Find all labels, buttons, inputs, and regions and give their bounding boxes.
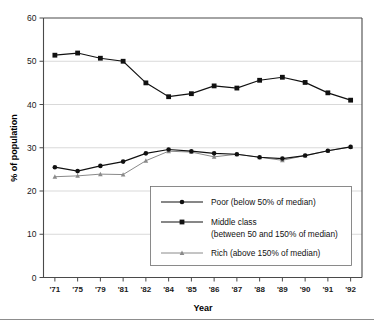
- x-tick-label: '81: [118, 285, 129, 294]
- x-tick-label: '89: [277, 285, 288, 294]
- data-point-marker: [143, 80, 148, 85]
- x-tick-label: '79: [95, 285, 106, 294]
- data-point-marker: [348, 98, 353, 103]
- data-point-marker: [212, 151, 217, 156]
- data-point-marker: [234, 86, 239, 91]
- y-tick-label: 30: [27, 143, 37, 153]
- data-point-marker: [121, 159, 126, 164]
- data-point-marker: [212, 84, 217, 89]
- x-tick-label: '86: [209, 285, 220, 294]
- data-point-marker: [235, 152, 240, 157]
- data-point-marker: [98, 164, 103, 169]
- x-tick-label: '75: [72, 285, 83, 294]
- data-point-marker: [326, 148, 331, 153]
- x-tick-label: '92: [345, 285, 356, 294]
- data-point-marker: [166, 147, 171, 152]
- x-tick-label: '88: [254, 285, 265, 294]
- y-tick-label: 10: [27, 229, 37, 239]
- y-tick-label: 0: [32, 273, 37, 283]
- population-distribution-line-chart: 0102030405060 '71'75'79'81'82'84'85'86'8…: [0, 0, 374, 325]
- data-point-marker: [75, 169, 80, 174]
- data-point-marker: [180, 200, 185, 205]
- data-point-marker: [257, 78, 262, 83]
- series-group: [52, 51, 353, 179]
- legend-label-secondary: (between 50 and 150% of median): [211, 229, 338, 239]
- data-point-marker: [144, 151, 149, 156]
- y-tick-label: 50: [27, 56, 37, 66]
- x-tick-label: '85: [186, 285, 197, 294]
- y-axis-ticks: 0102030405060: [27, 13, 43, 283]
- y-tick-label: 40: [27, 100, 37, 110]
- legend-label: Poor (below 50% of median): [211, 197, 316, 207]
- data-point-marker: [280, 75, 285, 80]
- data-point-marker: [121, 59, 126, 64]
- data-point-marker: [325, 90, 330, 95]
- data-point-marker: [166, 94, 171, 99]
- x-tick-label: '91: [322, 285, 333, 294]
- y-tick-label: 20: [27, 186, 37, 196]
- series-circle: [53, 145, 353, 174]
- x-tick-label: '82: [140, 285, 151, 294]
- data-point-marker: [348, 145, 353, 150]
- y-tick-label: 60: [27, 13, 37, 23]
- series-square: [52, 51, 353, 103]
- legend-label: Middle class: [211, 217, 257, 227]
- data-point-marker: [189, 91, 194, 96]
- series-triangle: [53, 144, 353, 178]
- x-tick-label: '87: [231, 285, 242, 294]
- y-axis-title: % of population: [9, 114, 19, 182]
- data-point-marker: [52, 53, 57, 58]
- chart-container: 0102030405060 '71'75'79'81'82'84'85'86'8…: [0, 0, 374, 325]
- data-point-marker: [180, 220, 185, 225]
- data-point-marker: [280, 156, 285, 161]
- data-point-marker: [303, 80, 308, 85]
- x-axis-title: Year: [193, 303, 213, 313]
- x-axis-ticks: '71'75'79'81'82'84'85'86'87'88'89'90'91'…: [49, 278, 356, 294]
- data-point-marker: [189, 149, 194, 154]
- x-tick-label: '90: [300, 285, 311, 294]
- data-point-marker: [98, 56, 103, 61]
- chart-legend: Poor (below 50% of median)Middle class(b…: [151, 187, 352, 266]
- data-point-marker: [53, 165, 58, 170]
- x-tick-label: '84: [163, 285, 174, 294]
- data-point-marker: [303, 153, 308, 158]
- x-tick-label: '71: [49, 285, 60, 294]
- data-point-marker: [75, 51, 80, 56]
- legend-label: Rich (above 150% of median): [211, 248, 321, 258]
- data-point-marker: [257, 155, 262, 160]
